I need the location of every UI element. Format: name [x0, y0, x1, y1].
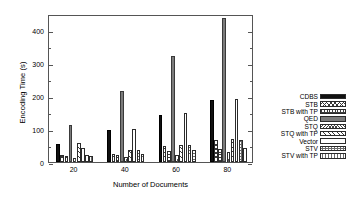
- x-axis-tick: [75, 159, 76, 162]
- y-axis-tick-labels: 0100200300400: [20, 0, 44, 197]
- y-axis-minor-tick: [49, 81, 51, 82]
- bar: [218, 149, 222, 162]
- bar: [65, 156, 69, 162]
- legend-item-label: QED: [304, 115, 318, 122]
- y-axis-tick-label: 100: [22, 127, 44, 134]
- y-axis-tick: [248, 164, 252, 165]
- legend-item-label: CDBS: [300, 93, 318, 100]
- encoding-time-bar-chart: Encoding Time (s) 0100200300400 20406080…: [0, 0, 347, 197]
- legend-item-label: STQ with TP: [281, 130, 318, 137]
- y-axis-tick-label: 200: [22, 94, 44, 101]
- bar: [60, 155, 64, 162]
- x-axis-tick-label: 80: [217, 166, 237, 173]
- y-axis-minor-tick: [49, 114, 51, 115]
- bar: [167, 151, 171, 163]
- y-axis-minor-tick: [250, 114, 252, 115]
- y-axis-minor-tick: [49, 48, 51, 49]
- bar: [120, 91, 124, 162]
- legend-item: STB: [258, 100, 346, 107]
- bar: [116, 155, 120, 162]
- legend-item: STV with TP: [258, 152, 346, 159]
- bar: [132, 129, 136, 162]
- x-axis-tick-label: 40: [115, 166, 135, 173]
- bar: [85, 155, 89, 162]
- legend-swatch: [320, 109, 346, 114]
- legend-swatch: [320, 146, 346, 151]
- y-axis-tick: [49, 32, 53, 33]
- y-axis-tick: [248, 32, 252, 33]
- legend-item-label: STV with TP: [281, 152, 318, 159]
- y-axis-tick-label: 300: [22, 61, 44, 68]
- legend-swatch: [320, 138, 346, 143]
- x-axis-tick-label: 20: [64, 166, 84, 173]
- bar: [89, 156, 93, 162]
- legend-item-label: STB with TP: [281, 108, 318, 115]
- y-axis-tick: [49, 65, 53, 66]
- bar: [231, 139, 235, 162]
- x-axis-tick: [228, 159, 229, 162]
- legend: CDBSSTBSTB with TPQEDSTQSTQ with TPVecto…: [258, 93, 346, 163]
- x-axis-tick: [126, 159, 127, 162]
- bar: [184, 113, 188, 162]
- legend-item: STV: [258, 145, 346, 152]
- bar: [222, 18, 226, 162]
- legend-swatch: [320, 153, 346, 158]
- bar: [171, 56, 175, 162]
- bar: [214, 140, 218, 162]
- legend-item: CDBS: [258, 93, 346, 100]
- x-axis-title: Number of Documents: [48, 180, 253, 189]
- legend-item-label: STB: [305, 101, 318, 108]
- legend-swatch: [320, 124, 346, 129]
- y-axis-minor-tick: [49, 147, 51, 148]
- x-axis-tick: [177, 159, 178, 162]
- y-axis-tick: [49, 98, 53, 99]
- bar: [239, 140, 243, 162]
- bar: [235, 99, 239, 162]
- y-axis-tick: [248, 98, 252, 99]
- legend-item: QED: [258, 115, 346, 122]
- bar: [163, 146, 167, 162]
- y-axis-minor-tick: [250, 81, 252, 82]
- bar: [141, 154, 145, 162]
- y-axis-tick: [49, 164, 53, 165]
- legend-swatch: [320, 116, 346, 121]
- bar: [243, 148, 247, 162]
- bar: [210, 100, 214, 162]
- y-axis-tick-label: 0: [22, 160, 44, 167]
- plot-area: [48, 15, 253, 163]
- plot-inner: [49, 16, 252, 162]
- y-axis-minor-tick: [250, 147, 252, 148]
- legend-swatch: [320, 94, 346, 99]
- legend-swatch: [320, 101, 346, 106]
- legend-item-label: Vector: [299, 138, 318, 145]
- bar: [179, 145, 183, 162]
- y-axis-minor-tick: [250, 48, 252, 49]
- bar: [77, 143, 81, 162]
- bar: [128, 150, 132, 162]
- legend-item: Vector: [258, 137, 346, 144]
- bar: [188, 145, 192, 162]
- bar: [137, 150, 141, 162]
- bar: [159, 115, 163, 162]
- y-axis-tick-label: 400: [22, 28, 44, 35]
- bar: [69, 125, 73, 162]
- legend-item-label: STV: [305, 145, 318, 152]
- legend-item: STQ: [258, 123, 346, 130]
- y-axis-tick: [248, 65, 252, 66]
- bar: [81, 148, 85, 162]
- legend-item: STQ with TP: [258, 130, 346, 137]
- bar: [192, 150, 196, 162]
- y-axis-tick: [248, 131, 252, 132]
- bar: [56, 144, 60, 162]
- legend-swatch: [320, 131, 346, 136]
- legend-item: STB with TP: [258, 108, 346, 115]
- bar: [112, 154, 116, 162]
- y-axis-tick: [49, 131, 53, 132]
- legend-item-label: STQ: [304, 123, 318, 130]
- bar: [107, 130, 111, 162]
- x-axis-tick-label: 60: [166, 166, 186, 173]
